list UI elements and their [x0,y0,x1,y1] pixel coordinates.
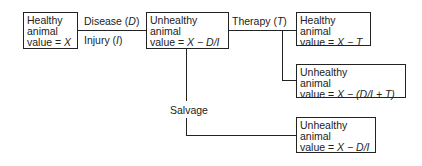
node-value: value = X − D/I [300,142,372,153]
edge-label-salvage: Salvage [170,104,208,116]
connector-therapy-unhealthy [282,80,296,81]
node-unhealthy-after-therapy: Unhealthy animal value = X − (D/I + T) [296,64,406,98]
node-healthy-initial: Healthy animal value = X [23,12,78,49]
edge-label-therapy: Therapy (T) [232,15,287,27]
node-value: value = X − (D/I + T) [300,89,402,100]
node-value: value = X [27,37,74,48]
node-healthy-after-therapy: Healthy animal value = X − T [296,12,371,46]
node-unhealthy-salvage: Unhealthy animal value = X − D/I [296,117,376,153]
connector-salvage-upper [186,49,187,101]
connector-therapy [229,30,296,31]
connector-salvage-lower [186,118,187,136]
node-unhealthy-after-event: Unhealthy animal value = X − D/I [146,12,229,49]
node-value: value = X − D/I [150,37,225,48]
connector-salvage-horizontal [186,135,296,136]
connector-disease-injury [78,30,146,31]
edge-label-disease: Disease (D) [84,15,139,27]
connector-therapy-branch [282,30,283,81]
edge-label-injury: Injury (I) [84,34,123,46]
node-value: value = X − T [300,37,367,48]
